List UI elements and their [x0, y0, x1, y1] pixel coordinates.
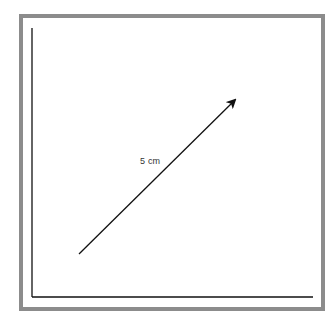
- vector-arrow: [79, 100, 235, 254]
- vector-magnitude-label: 5 cm: [140, 156, 160, 166]
- vector-diagram: [0, 0, 335, 322]
